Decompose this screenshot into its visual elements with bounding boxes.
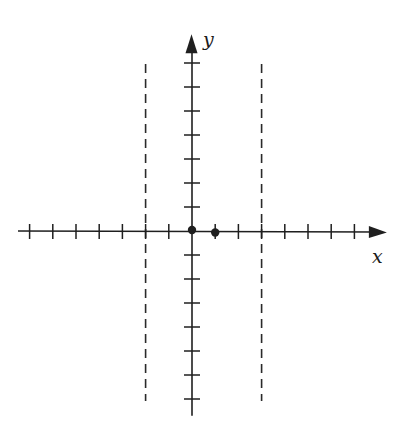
x-axis-line <box>18 231 377 232</box>
x-axis-arrow-icon <box>369 226 387 238</box>
coordinate-plane-diagram: x y <box>0 0 405 448</box>
x-axis-label: x <box>372 245 383 267</box>
asymptote-lines <box>146 64 262 401</box>
point-at-x1 <box>211 228 219 236</box>
coordinate-plane-svg: x y <box>0 0 405 448</box>
origin-point <box>188 226 196 234</box>
y-axis-label: y <box>202 28 214 50</box>
y-axis <box>186 34 198 416</box>
y-axis-arrow-icon <box>186 34 198 53</box>
